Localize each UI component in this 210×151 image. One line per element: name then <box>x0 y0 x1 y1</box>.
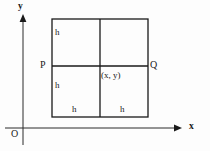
center-point-coordinates: (x, y) <box>101 71 121 80</box>
side-label-top-left: h <box>55 28 60 37</box>
geometry-figure: y x O h P h (x, y) Q h h <box>0 0 210 151</box>
origin-label: O <box>11 129 18 139</box>
side-label-bottom-right: h <box>120 105 125 114</box>
x-axis <box>5 125 182 132</box>
x-axis-label: x <box>189 122 194 132</box>
y-axis-arrowhead <box>20 14 27 22</box>
y-axis <box>20 14 27 145</box>
vertex-label-p: P <box>40 60 46 70</box>
side-label-left-lower: h <box>55 81 60 90</box>
vertex-label-q: Q <box>150 60 157 70</box>
y-axis-label: y <box>18 2 23 12</box>
side-label-bottom-left: h <box>72 105 77 114</box>
x-axis-arrowhead <box>174 125 182 132</box>
